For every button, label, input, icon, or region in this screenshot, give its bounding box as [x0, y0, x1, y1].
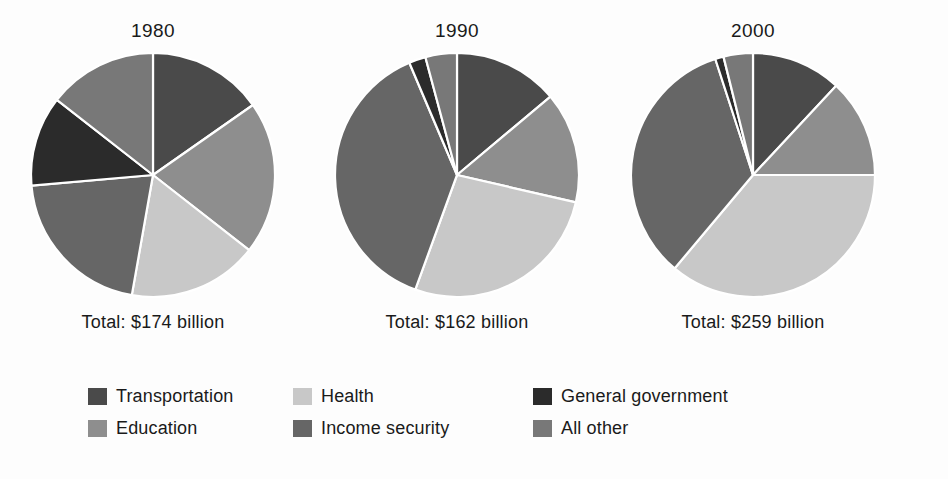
pie-slice-income-security: [31, 175, 153, 295]
chart-legend: Transportation Health General government…: [88, 380, 888, 444]
pie-svg-1990: [332, 50, 582, 300]
legend-label-general-government: General government: [561, 387, 728, 405]
legend-label-income-security: Income security: [321, 419, 449, 437]
legend-item-all-other: All other: [533, 419, 888, 437]
swatch-income-security-icon: [293, 420, 312, 437]
legend-label-all-other: All other: [561, 419, 628, 437]
legend-item-education: Education: [88, 419, 293, 437]
swatch-health-icon: [293, 388, 312, 405]
pie-title-2000: 2000: [608, 18, 898, 44]
legend-item-general-government: General government: [533, 387, 888, 405]
pie-panel-1990: 1990 Total: $162 billion: [312, 18, 602, 363]
legend-item-health: Health: [293, 387, 533, 405]
pie-svg-2000: [628, 50, 878, 300]
pie-chart-1980: [28, 50, 278, 300]
legend-label-health: Health: [321, 387, 374, 405]
legend-label-transportation: Transportation: [116, 387, 234, 405]
legend-item-income-security: Income security: [293, 419, 533, 437]
pie-panel-1980: 1980 Total: $174 billion: [8, 18, 298, 363]
pie-chart-2000: [628, 50, 878, 300]
pie-total-1980: Total: $174 billion: [8, 312, 298, 333]
pie-total-1990: Total: $162 billion: [312, 312, 602, 333]
pie-title-1990: 1990: [312, 18, 602, 44]
pie-svg-1980: [28, 50, 278, 300]
swatch-transportation-icon: [88, 388, 107, 405]
swatch-all-other-icon: [533, 420, 552, 437]
pie-panel-2000: 2000 Total: $259 billion: [608, 18, 898, 363]
pie-total-2000: Total: $259 billion: [608, 312, 898, 333]
pie-chart-figure: 1980 Total: $174 billion 1990 Total: $16…: [0, 0, 948, 479]
swatch-general-government-icon: [533, 388, 552, 405]
swatch-education-icon: [88, 420, 107, 437]
pie-chart-1990: [332, 50, 582, 300]
legend-label-education: Education: [116, 419, 197, 437]
legend-item-transportation: Transportation: [88, 387, 293, 405]
pie-title-1980: 1980: [8, 18, 298, 44]
